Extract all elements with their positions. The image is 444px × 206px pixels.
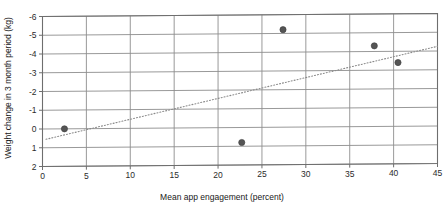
x-tick-label: 40 <box>389 168 399 178</box>
x-tick-label: 20 <box>213 170 223 180</box>
x-tick-label: 0 <box>40 171 45 181</box>
y-tick-labels: -6-5-4-3-2-1012 <box>29 12 37 172</box>
y-tick-label: 1 <box>32 143 37 153</box>
x-tick-label: 35 <box>345 169 355 179</box>
x-axis-title: Mean app engagement (percent) <box>160 192 284 202</box>
y-tick-label: -1 <box>29 105 37 115</box>
y-tick-label: -6 <box>29 12 37 22</box>
y-tick-label: 0 <box>32 124 37 134</box>
x-tick-labels: 051015202530354045 <box>40 168 442 181</box>
x-tick-label: 45 <box>433 168 443 178</box>
y-axis-title: Weight change in 3 month period (kg) <box>3 17 13 159</box>
chart-canvas: 051015202530354045 -6-5-4-3-2-1012 Mean … <box>0 0 444 206</box>
y-tick-label: 2 <box>32 162 37 172</box>
x-tick-label: 15 <box>169 170 179 180</box>
x-tick-label: 10 <box>126 170 136 180</box>
scatter-plot-figure: 051015202530354045 -6-5-4-3-2-1012 Mean … <box>0 0 444 206</box>
y-tick-label: -3 <box>29 68 37 78</box>
trendline <box>46 46 437 139</box>
x-tick-label: 30 <box>301 169 311 179</box>
x-tick-label: 5 <box>84 171 89 181</box>
y-tick-label: -4 <box>29 49 37 59</box>
y-tick-label: -2 <box>29 87 37 97</box>
y-tick-label: -5 <box>29 30 37 40</box>
x-tick-label: 25 <box>257 169 267 179</box>
